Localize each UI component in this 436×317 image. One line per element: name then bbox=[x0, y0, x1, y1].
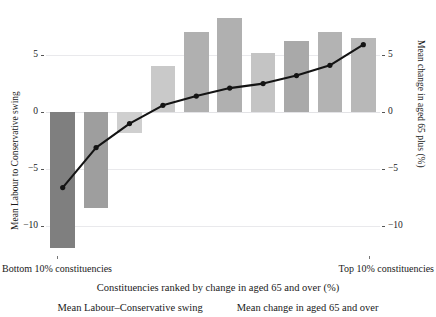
left-tick-mark--5 bbox=[41, 169, 44, 170]
right-tick-label--5: −5 bbox=[388, 164, 398, 174]
right-tick-label-5: 5 bbox=[388, 50, 393, 60]
x-axis-left-category: Bottom 10% constituencies bbox=[2, 264, 112, 274]
chart-figure: Mean Labour to Conservative swing Mean c… bbox=[0, 0, 436, 317]
left-tick-label--5: −5 bbox=[12, 164, 38, 174]
gridline--10 bbox=[46, 226, 380, 227]
right-tick-mark-0 bbox=[382, 112, 385, 113]
x-tick-right bbox=[369, 256, 370, 259]
left-tick-mark--10 bbox=[41, 226, 44, 227]
legend-label-swing: Mean Labour–Conservative swing bbox=[58, 303, 203, 314]
right-tick-mark-5 bbox=[382, 55, 385, 56]
chart-legend: Mean Labour–Conservative swing Mean chan… bbox=[0, 303, 436, 314]
bar bbox=[184, 32, 209, 112]
x-axis-right-category: Top 10% constituencies bbox=[339, 264, 434, 274]
right-tick-label-0: 0 bbox=[388, 107, 393, 117]
right-axis-title: Mean change in aged 65 plus (%) bbox=[416, 40, 426, 168]
left-tick-mark-0 bbox=[41, 112, 44, 113]
left-tick-mark-5 bbox=[41, 55, 44, 56]
bar bbox=[351, 38, 376, 112]
right-tick-mark--10 bbox=[382, 226, 385, 227]
bar bbox=[217, 18, 242, 112]
left-tick-label-5: 5 bbox=[12, 50, 38, 60]
bar bbox=[151, 66, 176, 112]
bar bbox=[50, 112, 75, 248]
bar bbox=[117, 112, 142, 133]
cropped-header-text bbox=[0, 0, 436, 9]
right-tick-mark--5 bbox=[382, 169, 385, 170]
legend-label-aged65: Mean change in aged 65 and over bbox=[237, 303, 379, 314]
left-tick-label--10: −10 bbox=[12, 221, 38, 231]
right-tick-label--10: −10 bbox=[388, 221, 403, 231]
x-axis-title: Constituencies ranked by change in aged … bbox=[0, 283, 436, 294]
bar bbox=[284, 41, 309, 112]
left-tick-label-0: 0 bbox=[12, 107, 38, 117]
bar bbox=[318, 32, 343, 112]
bar bbox=[251, 53, 276, 112]
legend-item-swing: Mean Labour–Conservative swing bbox=[58, 303, 203, 314]
bar bbox=[84, 112, 109, 208]
plot-area bbox=[46, 15, 380, 255]
legend-item-aged65: Mean change in aged 65 and over bbox=[237, 303, 379, 314]
x-tick-left bbox=[57, 256, 58, 259]
